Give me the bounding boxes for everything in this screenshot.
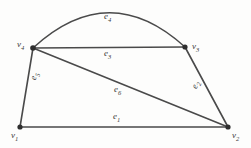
vertex-dot-v3 (182, 44, 187, 49)
vertex-dot-v4 (30, 45, 36, 51)
edge-label-e6: e6 (114, 85, 121, 96)
vertex-dot-v1 (17, 124, 22, 129)
edge-label-e1: e1 (113, 112, 120, 123)
graph-figure: v1 v2 v3 v4 e1 e2 e3 e4 e5 e6 (0, 0, 251, 148)
edge-label-e4: e4 (104, 12, 111, 23)
vertex-label-v4: v4 (17, 40, 24, 51)
vertex-label-v3: v3 (192, 42, 199, 53)
vertex-label-v1: v1 (11, 131, 18, 142)
edge-e3-line (33, 47, 185, 48)
edge-e5-line (20, 48, 33, 127)
edge-label-e3: e3 (104, 49, 111, 60)
vertex-label-v2: v2 (232, 131, 239, 142)
vertex-dot-v2 (225, 124, 230, 129)
